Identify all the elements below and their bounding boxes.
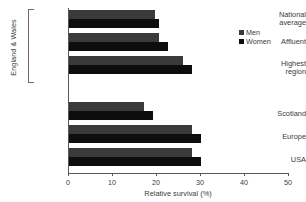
group-bracket (28, 9, 34, 83)
legend: Men Women (239, 28, 271, 46)
legend-item-women: Women (239, 37, 271, 46)
bar-affluent-men (69, 33, 159, 42)
x-tick-0 (68, 173, 69, 176)
x-tick-label-30: 30 (188, 178, 212, 187)
x-tick-50 (288, 173, 289, 176)
bar-scotland-women (69, 111, 153, 120)
legend-swatch-women-icon (239, 39, 244, 44)
x-tick-20 (156, 173, 157, 176)
legend-swatch-men-icon (239, 30, 244, 35)
x-tick-label-0: 0 (56, 178, 80, 187)
bar-national-average-women (69, 19, 159, 28)
legend-label-women: Women (246, 37, 271, 46)
x-tick-label-10: 10 (100, 178, 124, 187)
relative-survival-bar-chart: England & Wales National average Affluen… (0, 0, 306, 202)
bar-highest-region-women (69, 65, 192, 74)
x-tick-40 (244, 173, 245, 176)
bar-europe-women (69, 134, 201, 143)
x-axis-title: Relative survival (%) (68, 189, 288, 198)
bar-usa-men (69, 148, 192, 157)
x-tick-10 (112, 173, 113, 176)
bar-usa-women (69, 157, 201, 166)
legend-label-men: Men (246, 28, 260, 37)
bar-scotland-men (69, 102, 144, 111)
x-tick-label-20: 20 (144, 178, 168, 187)
bar-affluent-women (69, 42, 168, 51)
legend-item-men: Men (239, 28, 271, 37)
group-axis-label-england-wales: England & Wales (9, 8, 18, 88)
bar-highest-region-men (69, 56, 183, 65)
x-tick-label-40: 40 (232, 178, 256, 187)
bar-national-average-men (69, 10, 155, 19)
bar-europe-men (69, 125, 192, 134)
x-axis-line (68, 173, 288, 174)
x-tick-30 (200, 173, 201, 176)
x-tick-label-50: 50 (276, 178, 300, 187)
